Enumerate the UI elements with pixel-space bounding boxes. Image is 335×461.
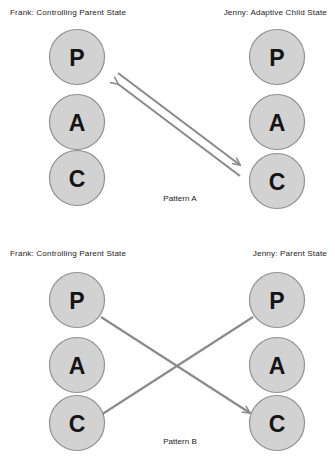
pattern-b-right-ego-state-c: C xyxy=(250,396,305,451)
ego-state-letter: P xyxy=(69,45,84,71)
pattern-b-transaction-jenny-parent-to-frank-child xyxy=(104,317,253,413)
ego-state-letter: A xyxy=(269,110,286,136)
ego-state-letter: P xyxy=(269,288,284,314)
ego-state-letter: A xyxy=(269,353,286,379)
ego-state-letter: C xyxy=(69,411,86,437)
pattern-a-transaction-to-child xyxy=(118,73,240,165)
ego-state-letter: C xyxy=(269,411,286,437)
pattern-a-right-ego-state-a: A xyxy=(250,95,305,150)
pattern-a-right-ego-state-c: C xyxy=(250,154,305,209)
pattern-b-caption: Pattern B xyxy=(140,438,220,446)
pattern-b-left-ego-state-p: P xyxy=(50,273,105,328)
pattern-a-transaction-to-parent xyxy=(118,84,240,176)
pattern-a-right-ego-state-p: P xyxy=(250,30,305,85)
pattern-a-diagram: Frank: Controlling Parent State Jenny: A… xyxy=(0,0,335,230)
pattern-b-transaction-frank-parent-to-jenny-child xyxy=(101,317,250,413)
pattern-a-left-ego-state-p: P xyxy=(50,30,105,85)
pattern-b-canvas: P A C P A C xyxy=(0,238,335,461)
ego-state-letter: C xyxy=(269,169,286,195)
pattern-a-left-ego-state-a: A xyxy=(50,95,105,150)
pattern-a-left-ego-state-c: C xyxy=(50,151,105,206)
ego-state-letter: A xyxy=(69,353,86,379)
ego-state-letter: P xyxy=(269,45,284,71)
ego-state-letter: C xyxy=(69,166,86,192)
pattern-b-diagram: Frank: Controlling Parent State Jenny: P… xyxy=(0,238,335,461)
pattern-b-left-ego-state-a: A xyxy=(50,338,105,393)
pattern-a-caption: Pattern A xyxy=(140,195,220,203)
pattern-b-right-ego-state-a: A xyxy=(250,338,305,393)
ego-state-letter: P xyxy=(69,288,84,314)
ego-state-letter: A xyxy=(69,110,86,136)
pattern-b-right-ego-state-p: P xyxy=(250,273,305,328)
pattern-b-left-ego-state-c: C xyxy=(50,396,105,451)
